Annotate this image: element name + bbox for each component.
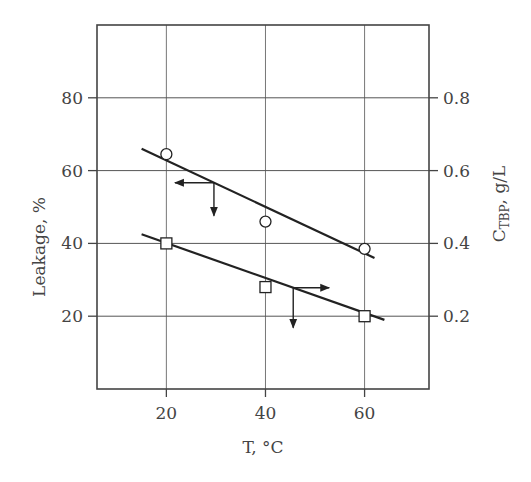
y-axis-label-right: CTBP, g/L <box>489 166 512 243</box>
chart: 204060204060800.20.40.60.8 T, °C Leakage… <box>0 0 531 482</box>
x-tick-label: 40 <box>255 403 277 423</box>
circle-marker <box>359 243 370 254</box>
square-marker <box>260 282 271 293</box>
square-marker <box>161 238 172 249</box>
y-axis-label-right-main: C <box>489 229 509 242</box>
x-tick-label: 60 <box>354 403 376 423</box>
y-tick-label-right: 0.2 <box>443 306 470 326</box>
y-axis-label-right-subscript: TBP <box>498 204 512 229</box>
fit-line <box>142 234 385 320</box>
y-tick-label-left: 60 <box>61 161 83 181</box>
circle-marker <box>161 149 172 160</box>
x-tick-label: 20 <box>156 403 178 423</box>
y-tick-label-left: 40 <box>61 233 83 253</box>
square-marker <box>359 311 370 322</box>
y-tick-label-left: 20 <box>61 306 83 326</box>
fit-line <box>142 149 375 258</box>
y-axis-label-left: Leakage, % <box>29 197 49 297</box>
fit-lines <box>142 149 385 320</box>
grid-lines <box>97 25 429 389</box>
x-axis-label: T, °C <box>242 437 283 457</box>
y-tick-label-right: 0.4 <box>443 233 470 253</box>
circle-marker <box>260 216 271 227</box>
y-tick-label-right: 0.8 <box>443 88 470 108</box>
y-tick-label-right: 0.6 <box>443 161 470 181</box>
y-tick-label-left: 80 <box>61 88 83 108</box>
y-axis-label-right-unit: , g/L <box>489 166 509 205</box>
plot-frame <box>97 25 429 389</box>
